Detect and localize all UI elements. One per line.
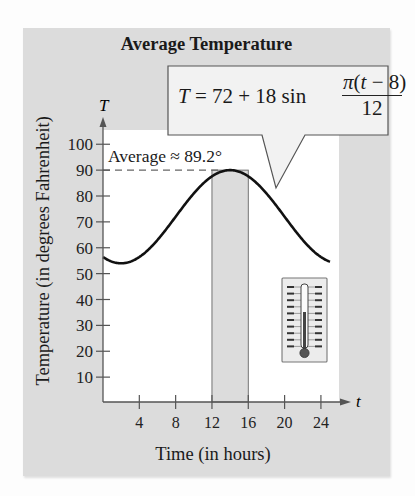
shaded-band — [212, 170, 248, 402]
y-tick-label: 100 — [68, 135, 94, 154]
equation-numerator: π(t − 8) — [342, 70, 402, 96]
equation-denominator: 12 — [342, 96, 402, 120]
y-axis-symbol: T — [99, 96, 110, 115]
y-tick-label: 70 — [76, 213, 93, 232]
y-tick-label: 80 — [76, 187, 93, 206]
y-axis-arrow-icon — [100, 117, 107, 127]
average-label: Average ≈ 89.2° — [108, 146, 222, 167]
equation-lhs: T = 72 + 18 sin — [178, 84, 306, 109]
y-tick-label: 60 — [76, 239, 93, 258]
thermometer-icon — [282, 278, 327, 362]
x-tick-label: 16 — [240, 414, 256, 431]
y-tick-label: 50 — [76, 265, 93, 284]
y-tick-label: 90 — [76, 161, 93, 180]
y-tick-label: 40 — [76, 291, 93, 310]
x-tick-label: 8 — [172, 414, 180, 431]
x-tick-label: 20 — [277, 414, 293, 431]
y-axis-label: Temperature (in degrees Fahrenheit) — [33, 156, 54, 386]
y-tick-label: 20 — [76, 342, 93, 361]
equation-fraction: π(t − 8) 12 — [342, 70, 402, 120]
x-tick-label: 12 — [204, 414, 220, 431]
x-axis-label: Time (in hours) — [103, 444, 323, 465]
y-tick-label: 10 — [76, 368, 93, 387]
y-tick-label: 30 — [76, 316, 93, 335]
x-tick-label: 24 — [313, 414, 329, 431]
x-axis-symbol: t — [356, 392, 362, 411]
x-axis-arrow-icon — [340, 399, 351, 406]
x-tick-label: 4 — [135, 414, 143, 431]
